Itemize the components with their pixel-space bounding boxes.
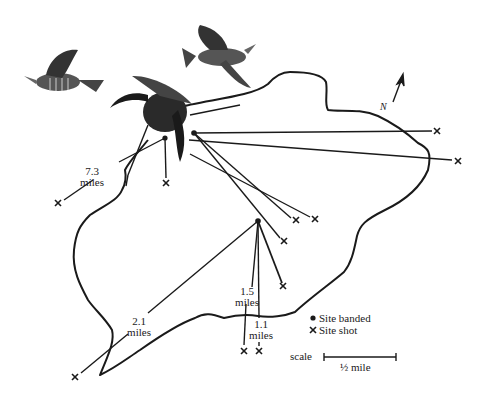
distance-label-7-3: 7.3 miles — [75, 166, 109, 188]
distance-unit: miles — [122, 327, 156, 338]
x-mark-icon — [163, 180, 169, 186]
grouse-wings-raised-illustration — [110, 76, 192, 162]
legend-x-icon — [310, 327, 316, 333]
x-mark-icon — [280, 283, 286, 289]
distance-label-1-1: 1.1 miles — [244, 319, 278, 341]
distance-label-2-1: 2.1 miles — [122, 316, 156, 338]
legend-shot: Site shot — [319, 324, 357, 336]
banded-site-b — [191, 130, 197, 136]
distance-unit: miles — [75, 177, 109, 188]
banded-site-c — [255, 218, 261, 224]
range-map — [0, 0, 483, 416]
grouse-flying-left-illustration — [24, 50, 104, 92]
x-mark-icon — [55, 200, 61, 206]
x-mark-icon — [293, 217, 299, 223]
x-mark-icon — [312, 216, 318, 222]
legend-banded: Site banded — [319, 312, 371, 324]
scale-label: scale — [290, 350, 312, 362]
x-mark-icon — [281, 238, 287, 244]
x-mark-icon — [241, 348, 247, 354]
distance-unit: miles — [230, 297, 264, 308]
scale-bar — [324, 353, 396, 361]
x-mark-icon — [256, 348, 262, 354]
banded-site-a — [162, 135, 167, 140]
distance-unit: miles — [244, 330, 278, 341]
north-arrow-icon — [393, 74, 404, 102]
distance-label-1-5: 1.5 miles — [230, 286, 264, 308]
x-mark-icon — [455, 158, 461, 164]
scale-value: ½ mile — [340, 361, 371, 373]
x-mark-icon — [434, 128, 440, 134]
legend-dot-icon — [310, 315, 315, 320]
grouse-flying-right-illustration — [182, 25, 256, 88]
north-label: N — [380, 101, 387, 112]
x-mark-icon — [72, 374, 78, 380]
